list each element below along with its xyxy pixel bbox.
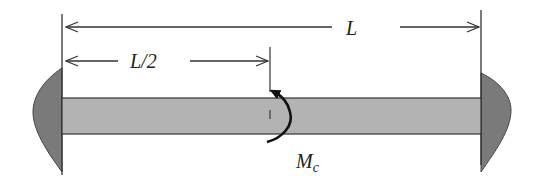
- half-span-dimension: L/2: [66, 47, 270, 92]
- moment-label: Mc: [295, 150, 320, 175]
- half-span-label: L/2: [129, 50, 157, 72]
- left-fixed-support: [33, 14, 62, 175]
- right-fixed-support: [481, 10, 511, 172]
- beam-diagram: L L/2 Mc: [0, 0, 539, 187]
- span-dimension: L: [66, 17, 479, 39]
- beam: [62, 98, 481, 134]
- span-label: L: [345, 17, 357, 39]
